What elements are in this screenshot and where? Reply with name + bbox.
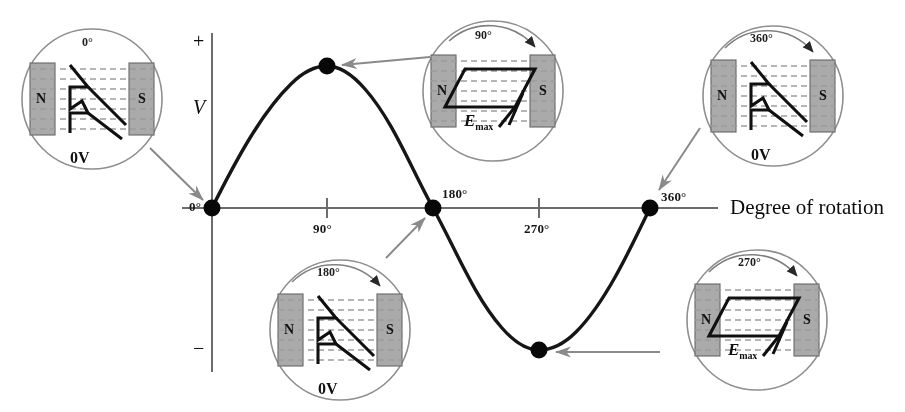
inset-270-angle-label: 270° — [738, 256, 761, 268]
curve-label-360deg: 360° — [661, 190, 687, 203]
point-360deg — [642, 200, 659, 217]
point-180deg — [425, 200, 442, 217]
inset-0-angle-label: 0° — [82, 36, 93, 48]
curve-label-270deg: 270° — [524, 222, 550, 235]
curve-label-180deg: 180° — [442, 187, 468, 200]
inset-90-north-pole: N — [437, 84, 447, 98]
inset-90-south-pole: S — [539, 84, 547, 98]
arrow-to-180deg — [386, 218, 425, 258]
inset-90-angle-label: 90° — [475, 29, 492, 41]
x-axis-label: Degree of rotation — [730, 197, 884, 218]
inset-90-value-label: Emax — [464, 112, 493, 132]
inset-180-north-pole: N — [284, 323, 294, 337]
emax-subscript: max — [475, 121, 493, 132]
inset-180-south-pole: S — [386, 323, 394, 337]
emax-symbol: E — [728, 340, 739, 359]
inset-270-south-pole: S — [803, 313, 811, 327]
inset-270-value-label: Emax — [728, 341, 757, 361]
y-axis-negative-sign: − — [193, 338, 204, 358]
emax-symbol: E — [464, 111, 475, 130]
inset-360-north-pole: N — [717, 89, 727, 103]
inset-360-south-pole: S — [819, 89, 827, 103]
arrow-to-360deg — [659, 128, 700, 190]
arrow-to-90deg — [342, 57, 430, 65]
point-270deg — [531, 342, 548, 359]
curve-label-0deg: 0° — [189, 200, 201, 213]
figure-canvas: + V − Degree of rotation 0° 90° 180° 270… — [0, 0, 905, 412]
emax-subscript: max — [739, 350, 757, 361]
inset-0-south-pole: S — [138, 92, 146, 106]
arrow-to-0deg — [150, 148, 203, 200]
curve-label-90deg: 90° — [313, 222, 332, 235]
y-axis-label: V — [193, 97, 205, 117]
inset-360-angle-label: 360° — [750, 32, 773, 44]
inset-0-north-pole: N — [36, 92, 46, 106]
y-axis-positive-sign: + — [193, 31, 204, 51]
inset-180-value-label: 0V — [318, 381, 338, 397]
inset-360-value-label: 0V — [751, 147, 771, 163]
inset-180-angle-label: 180° — [317, 266, 340, 278]
inset-270-north-pole: N — [701, 313, 711, 327]
point-0deg — [204, 200, 221, 217]
point-90deg — [319, 58, 336, 75]
inset-0-value-label: 0V — [70, 150, 90, 166]
